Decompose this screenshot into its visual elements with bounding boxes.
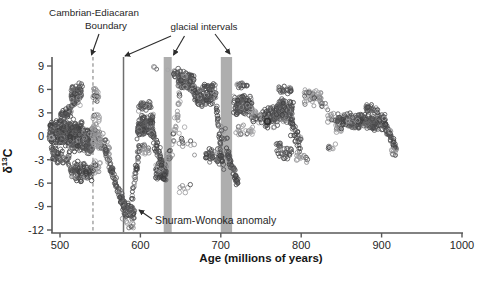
chart-canvas: 50060070080090010009630-3-6-9-12 [0,0,494,285]
cambrian-boundary-arrow [92,34,100,55]
y-tick-label: 0 [38,130,44,142]
x-tick-label: 800 [292,239,310,251]
glacial-arrow-left [125,36,171,56]
x-tick-label: 700 [212,239,230,251]
y-tick-label: 9 [38,60,44,72]
glacial-arrow-middle [174,36,185,55]
annotation-arrows [92,34,231,219]
y-tick-label: -12 [28,224,44,236]
y-axis-title-element: C [1,149,15,158]
glacial-arrow-right [215,34,230,54]
x-axis-title: Age (millions of years) [141,252,381,264]
y-axis-title-delta: δ [1,166,15,173]
cambrian-ediacaran-label-line1: Cambrian-Ediacaran [34,7,154,19]
shuram-arrow [139,210,152,219]
y-tick-label: -3 [34,154,44,166]
glacial-intervals-label: glacial intervals [144,21,264,33]
y-tick-label: 6 [38,83,44,95]
y-axis-title-superscript: 13 [0,157,9,166]
x-tick-label: 1000 [450,239,474,251]
y-tick-label: -6 [34,177,44,189]
shuram-wonoka-label: Shuram-Wonoka anomaly [155,214,276,226]
y-tick-label: -9 [34,200,44,212]
x-tick-label: 900 [372,239,390,251]
y-tick-label: 3 [38,107,44,119]
x-tick-label: 600 [131,239,149,251]
y-axis-title: δ13C [0,101,22,221]
chart-figure: 50060070080090010009630-3-6-9-12 Cambria… [0,0,494,285]
x-tick-label: 500 [51,239,69,251]
